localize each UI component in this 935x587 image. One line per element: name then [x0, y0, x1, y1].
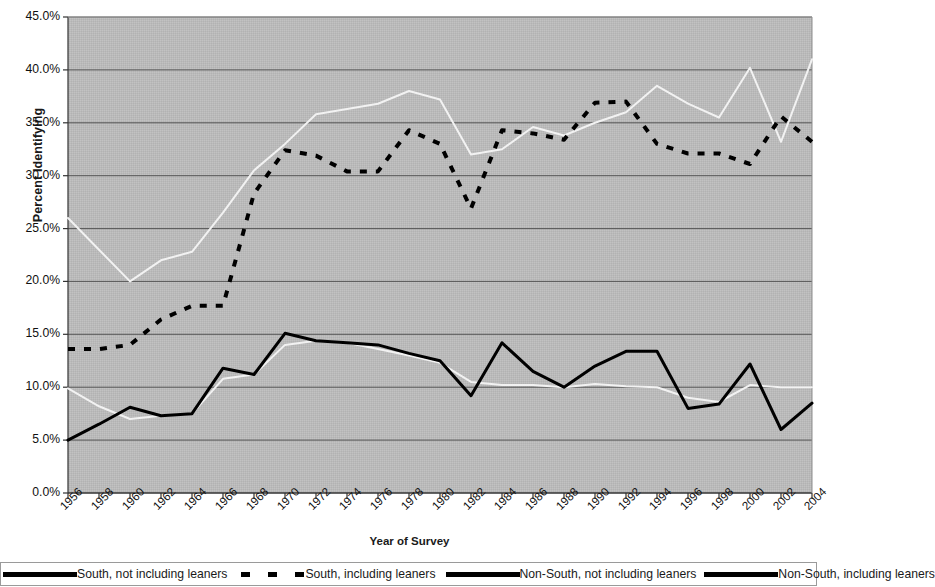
y-axis-tick-label: 0.0%: [0, 485, 60, 499]
y-axis-tick-label: 30.0%: [0, 168, 60, 182]
y-axis-tick-label: 15.0%: [0, 326, 60, 340]
legend-item[interactable]: Non-South, including leaners: [704, 563, 935, 585]
y-axis-tick-label: 10.0%: [0, 379, 60, 393]
chart-legend: South, not including leanersSouth, inclu…: [0, 562, 817, 586]
legend-swatch-bar: [3, 572, 77, 577]
y-axis-tick-label: 25.0%: [0, 221, 60, 235]
legend-swatch-bar: [446, 572, 520, 577]
y-axis-tick-label: 20.0%: [0, 273, 60, 287]
y-axis-tick-label: 35.0%: [0, 115, 60, 129]
y-axis-tick-label: 45.0%: [0, 9, 60, 23]
y-axis-tick-label: 5.0%: [0, 432, 60, 446]
legend-solid-line-icon: [704, 568, 778, 580]
legend-item-label: Non-South, including leaners: [778, 567, 935, 581]
legend-item-label: South, not including leaners: [77, 567, 227, 581]
legend-dashed-line-icon: [241, 568, 305, 580]
x-axis-title: Year of Survey: [0, 535, 819, 547]
y-axis-tick-label: 40.0%: [0, 62, 60, 76]
legend-swatch-bar: [241, 572, 305, 577]
legend-item-label: South, including leaners: [305, 567, 435, 581]
legend-item[interactable]: South, including leaners: [241, 563, 435, 585]
legend-solid-line-icon: [446, 568, 520, 580]
legend-solid-line-icon: [3, 568, 77, 580]
legend-item-label: Non-South, not including leaners: [520, 567, 697, 581]
legend-swatch-bar: [704, 572, 778, 577]
legend-item[interactable]: Non-South, not including leaners: [446, 563, 697, 585]
legend-item[interactable]: South, not including leaners: [3, 563, 227, 585]
